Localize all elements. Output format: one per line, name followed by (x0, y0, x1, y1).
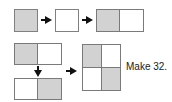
diagram-canvas: Make 32. (0, 0, 172, 102)
white-gray-rectangle-bottom (14, 78, 62, 100)
grid-cell-bottom-left (83, 68, 102, 91)
checkerboard-square (82, 44, 121, 91)
gray-square-tile (14, 9, 38, 32)
rect-cell-left (97, 10, 120, 31)
grid-cell-top-right (102, 45, 121, 68)
rect-cell-left (15, 79, 38, 99)
rect-cell-right (38, 44, 61, 64)
grid-cell-top-left (83, 45, 102, 68)
gray-white-rectangle-bottom (14, 43, 62, 65)
rect-cell-right (38, 79, 61, 99)
rect-cell-left (15, 44, 38, 64)
rect-cell-right (120, 10, 143, 31)
white-square-tile (55, 9, 79, 32)
gray-white-rectangle-top (96, 9, 144, 32)
make-32-caption: Make 32. (126, 61, 167, 73)
grid-cell-bottom-right (102, 68, 121, 91)
